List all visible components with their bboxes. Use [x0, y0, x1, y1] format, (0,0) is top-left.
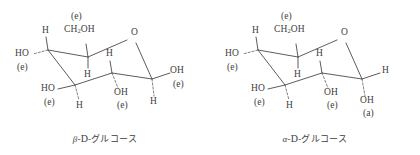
ring-bond-c4-c5 — [258, 50, 298, 57]
label-c5-hydrogen: H — [84, 70, 91, 80]
ring-bond-c3-c2 — [285, 73, 322, 85]
label-c2-hydrogen: H — [106, 49, 113, 59]
label-c1-hydroxyl: OH — [360, 96, 374, 106]
label-c2-hydroxyl: OH — [324, 88, 338, 98]
ring-bond-c4-c5 — [48, 50, 88, 57]
label-c1-conformation: (a) — [363, 109, 374, 119]
label-c1-hydroxyl: OH — [170, 66, 184, 76]
molecule-alpha-d-glucose: (e) CH2OH H H HO (e) HO (e) H H OH (e) O… — [210, 0, 420, 155]
label-c3-hydrogen: H — [76, 101, 83, 111]
ring-bond-c1-o — [136, 43, 152, 79]
bond-c3-ho — [58, 85, 75, 89]
label-c3-conformation: (e) — [254, 98, 265, 108]
label-c5-hydrogen: H — [294, 70, 301, 80]
bond-c2-h — [110, 61, 112, 73]
bond-c5-ch2oh — [86, 44, 88, 57]
bond-c2-h — [320, 61, 322, 73]
bond-c4-oh-dashed — [243, 50, 258, 54]
glucose-anomers-figure: (e) CH2OH H H HO (e) HO (e) H H OH (e) O… — [0, 0, 420, 155]
bond-c2-oh-dashed — [322, 73, 328, 88]
label-c3-hydroxyl: HO — [41, 84, 55, 94]
label-c2-hydroxyl: OH — [114, 88, 128, 98]
label-ring-oxygen: O — [341, 28, 348, 38]
bond-c2-oh-dashed — [112, 73, 118, 88]
bond-c5-ch2oh — [296, 44, 298, 57]
label-c6-hydroxymethyl: CH2OH — [274, 25, 305, 35]
bond-c4-h — [256, 37, 258, 50]
bond-c1-oh-dashed — [362, 79, 365, 96]
label-c3-hydrogen: H — [286, 101, 293, 111]
label-c3-hydroxyl: HO — [251, 84, 265, 94]
bond-c3-h-dashed — [75, 85, 79, 100]
bond-c1-h-dashed — [152, 79, 154, 96]
bond-c1-oh — [152, 73, 170, 79]
label-c2-conformation: (e) — [117, 101, 128, 111]
ring-bond-c1-o — [346, 43, 362, 79]
label-c4-conformation: (e) — [17, 63, 28, 73]
label-c4-hydrogen: H — [252, 26, 259, 36]
bond-c3-ho — [268, 85, 285, 89]
bond-c4-oh-dashed — [33, 50, 48, 54]
molecule-beta-d-glucose: (e) CH2OH H H HO (e) HO (e) H H OH (e) O… — [0, 0, 210, 155]
bond-c4-h — [46, 37, 48, 50]
label-c4-hydroxyl: HO — [225, 49, 239, 59]
caption-alpha-d-glucose: α-D-グルコース — [210, 132, 420, 145]
ring-bond-c3-c2 — [75, 73, 112, 85]
ring-bond-c2-c1 — [112, 73, 152, 79]
label-c3-conformation: (e) — [44, 98, 55, 108]
label-c6-conformation: (e) — [281, 12, 292, 22]
ring-bond-c4-c3 — [258, 50, 285, 85]
label-c4-hydroxyl: HO — [15, 49, 29, 59]
label-c1-hydrogen: H — [382, 66, 389, 76]
label-c6-hydroxymethyl: CH2OH — [64, 25, 95, 35]
label-c1-conformation: (e) — [173, 80, 184, 90]
bond-c3-h-dashed — [285, 85, 289, 100]
label-ring-oxygen: O — [131, 28, 138, 38]
label-c2-hydrogen: H — [316, 49, 323, 59]
caption-beta-d-glucose: β-D-グルコース — [0, 132, 210, 145]
ring-bond-c2-c1 — [322, 73, 362, 79]
label-c6-conformation: (e) — [71, 12, 82, 22]
label-c4-conformation: (e) — [227, 63, 238, 73]
label-c2-conformation: (e) — [327, 101, 338, 111]
bond-c1-h — [362, 73, 380, 79]
label-c4-hydrogen: H — [42, 26, 49, 36]
label-c1-hydrogen: H — [150, 97, 157, 107]
ring-bond-c4-c3 — [48, 50, 75, 85]
